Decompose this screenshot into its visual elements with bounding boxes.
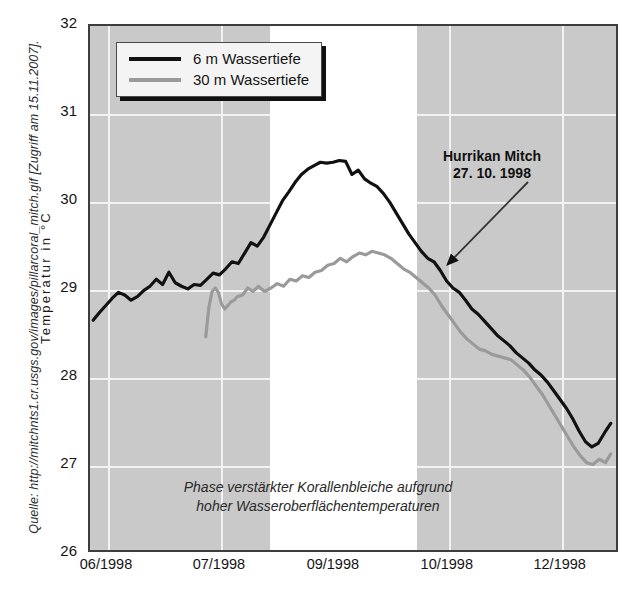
annotation-line-2: 27. 10. 1998	[443, 165, 541, 182]
legend: 6 m Wassertiefe30 m Wassertiefe	[116, 42, 322, 97]
chart-figure: Quelle: http://mitchnts1.cr.usgs.gov/ima…	[0, 0, 635, 592]
y-tick-label: 32	[37, 14, 77, 31]
plot-caption-line-2: hoher Wasseroberflächentemperaturen	[118, 497, 518, 516]
legend-label: 6 m Wassertiefe	[193, 50, 301, 67]
hurricane-annotation: Hurrikan Mitch 27. 10. 1998	[443, 148, 541, 182]
annotation-line-1: Hurrikan Mitch	[443, 148, 541, 165]
line-swatch-gray	[129, 78, 181, 82]
cut-off-title	[150, 0, 470, 5]
line-swatch-black	[129, 57, 181, 61]
plot-caption: Phase verstärkter Korallenbleiche aufgru…	[118, 478, 518, 516]
legend-label: 30 m Wassertiefe	[193, 71, 309, 88]
y-tick-label: 29	[37, 278, 77, 295]
series-lines	[90, 26, 616, 550]
legend-entry: 6 m Wassertiefe	[129, 48, 309, 69]
plot-area	[88, 24, 618, 552]
y-tick-label: 28	[37, 366, 77, 383]
y-tick-label: 30	[37, 190, 77, 207]
legend-entry: 30 m Wassertiefe	[129, 69, 309, 90]
series-line	[206, 251, 611, 464]
x-tick-label: 10/1998	[402, 556, 492, 572]
x-tick-label: 09/1998	[288, 556, 378, 572]
x-tick-label: 12/1998	[515, 556, 605, 572]
y-tick-label: 31	[37, 102, 77, 119]
x-tick-label: 07/1998	[174, 556, 264, 572]
plot-caption-line-1: Phase verstärkter Korallenbleiche aufgru…	[118, 478, 518, 497]
y-tick-label: 27	[37, 454, 77, 471]
x-tick-label: 06/1998	[61, 556, 151, 572]
series-line	[93, 160, 611, 446]
